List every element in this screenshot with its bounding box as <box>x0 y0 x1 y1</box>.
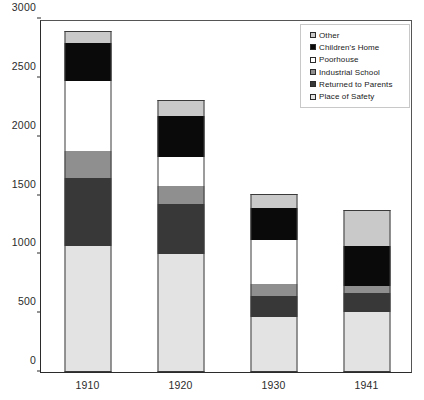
bar-segment[interactable] <box>64 151 111 177</box>
bar-segment[interactable] <box>250 296 297 317</box>
bar-stack[interactable] <box>343 210 390 372</box>
x-axis-tick-label: 1930 <box>261 379 285 391</box>
legend-item-label: Children's Home <box>319 43 379 52</box>
bar-segment[interactable] <box>64 43 111 81</box>
legend-swatch-icon <box>310 57 316 63</box>
legend-item-industrial-school[interactable]: Industrial School <box>310 66 405 78</box>
y-axis-tick-label: 2000 <box>12 119 41 131</box>
y-axis-tick-label: 500 <box>18 295 41 307</box>
bar-segment[interactable] <box>343 312 390 372</box>
bar-segment[interactable] <box>250 317 297 372</box>
bar-segment[interactable] <box>64 178 111 246</box>
legend-item-label: Industrial School <box>319 68 380 77</box>
bar-group: 1930 <box>250 19 297 372</box>
bar-segment[interactable] <box>157 254 204 372</box>
bar-segment[interactable] <box>250 194 297 208</box>
bar-group: 1920 <box>157 19 204 372</box>
bar-segment[interactable] <box>343 293 390 312</box>
legend-swatch-icon <box>310 94 316 100</box>
bar-segment[interactable] <box>250 208 297 239</box>
y-axis-tick-label: 2500 <box>12 60 41 72</box>
bar-segment[interactable] <box>157 204 204 253</box>
legend-item-children-s-home[interactable]: Children's Home <box>310 41 405 53</box>
legend-item-other[interactable]: Other <box>310 29 405 41</box>
legend-swatch-icon <box>310 81 316 87</box>
y-axis-tick-label: 3000 <box>12 1 41 13</box>
bar-group: 1910 <box>64 19 111 372</box>
x-axis-tick-label: 1910 <box>75 379 99 391</box>
legend-item-place-of-safety[interactable]: Place of Safety <box>310 90 405 102</box>
legend-item-returned-to-parents[interactable]: Returned to Parents <box>310 78 405 90</box>
stacked-bar-chart: 050010001500200025003000 191019201930194… <box>0 0 424 400</box>
bar-segment[interactable] <box>343 246 390 286</box>
bar-segment[interactable] <box>157 116 204 157</box>
legend-item-label: Other <box>319 31 340 40</box>
legend-swatch-icon <box>310 69 316 75</box>
bar-segment[interactable] <box>157 157 204 186</box>
bar-stack[interactable] <box>250 194 297 372</box>
bar-segment[interactable] <box>157 100 204 116</box>
bar-segment[interactable] <box>64 246 111 372</box>
bar-segment[interactable] <box>64 31 111 43</box>
bar-segment[interactable] <box>250 284 297 296</box>
y-axis-tick-label: 0 <box>30 354 41 366</box>
legend-swatch-icon <box>310 32 316 38</box>
legend-swatch-icon <box>310 44 316 50</box>
y-axis-tick-label: 1000 <box>12 236 41 248</box>
bar-segment[interactable] <box>250 240 297 284</box>
x-axis-tick-label: 1920 <box>168 379 192 391</box>
y-axis-tick-mark <box>37 18 41 19</box>
legend-item-label: Returned to Parents <box>319 80 393 89</box>
legend-item-label: Poorhouse <box>319 55 359 64</box>
bar-stack[interactable] <box>64 31 111 372</box>
legend-item-poorhouse[interactable]: Poorhouse <box>310 54 405 66</box>
legend-item-label: Place of Safety <box>319 92 374 101</box>
bar-segment[interactable] <box>64 81 111 151</box>
bar-segment[interactable] <box>157 186 204 204</box>
x-axis-tick-label: 1941 <box>354 379 378 391</box>
bar-segment[interactable] <box>343 210 390 246</box>
y-axis-tick-label: 1500 <box>12 178 41 190</box>
chart-legend: OtherChildren's HomePoorhouseIndustrial … <box>300 24 410 108</box>
bar-stack[interactable] <box>157 100 204 372</box>
